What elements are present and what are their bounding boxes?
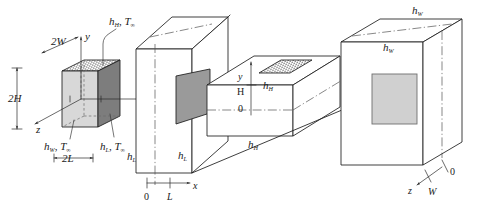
wall-L-axis-origin-label: 0: [144, 191, 149, 202]
block-dim-2H-label: 2H: [8, 92, 23, 104]
wall-L-axis-name-label: x: [192, 180, 198, 191]
plane-wall-W-group: hW hW 0 W z: [341, 4, 462, 197]
wall-W-axis-z: [417, 167, 442, 185]
block-axis-z-label: z: [35, 123, 41, 135]
wall-W-inner-square: [372, 74, 417, 124]
wall-W-axis-z-tick-0: [442, 160, 448, 172]
conduction-diagram-svg: x y z 2H 2L 2W hH, T∞: [0, 0, 479, 206]
wall-L-axis-tick-label: L: [166, 191, 173, 202]
wall-W-axis-tick-label: W: [428, 186, 438, 197]
block-3d-group: x y z 2H 2L 2W hH, T∞: [8, 15, 154, 164]
wall-H-front-face: [207, 85, 293, 136]
wall-W-conv-outer-label: hW: [412, 4, 424, 17]
wall-W-axis-origin-label: 0: [450, 166, 455, 177]
block-conv-right-label: hL, T∞: [100, 140, 126, 153]
wall-W-right-face: [423, 19, 462, 165]
wall-W-axis-name-label: z: [407, 185, 412, 196]
block-axis-y-label: y: [84, 30, 90, 42]
wall-H-conv-bottom-label: hH: [248, 138, 259, 151]
wall-H-axis-name-label: y: [237, 71, 243, 82]
block-dim-2W-label: 2W: [51, 35, 67, 47]
block-dim-2L-label: 2L: [62, 152, 74, 164]
wall-H-axis-origin-label: 0: [238, 103, 243, 114]
wall-L-conv-left-label: hL: [127, 150, 137, 163]
block-conv-front-label: hW, T∞: [44, 140, 71, 153]
wall-H-axis-tick-label: H: [237, 86, 244, 97]
block-conv-top-label: hH, T∞: [109, 15, 136, 28]
block-right-face: [98, 60, 120, 127]
wall-W-axis-z-tick-W: [425, 170, 431, 182]
figure-canvas: x y z 2H 2L 2W hH, T∞: [0, 0, 479, 206]
connector-upper: [228, 15, 230, 17]
